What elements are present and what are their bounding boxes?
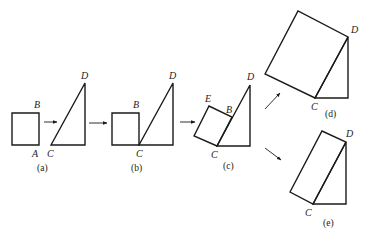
label-c: C xyxy=(136,148,143,159)
panel-d: D C (d) xyxy=(265,11,359,120)
label-e: E xyxy=(204,93,211,104)
label-b: B xyxy=(226,104,232,115)
label-b: B xyxy=(133,99,139,110)
label-a: A xyxy=(31,148,39,159)
right-triangle-shape xyxy=(139,83,173,145)
right-triangle-shape xyxy=(315,37,348,98)
label-d: D xyxy=(345,128,354,139)
caption-e: (e) xyxy=(323,218,334,229)
arrow-icon xyxy=(265,93,280,109)
right-triangle-shape xyxy=(313,142,346,204)
rotated-square-shape xyxy=(265,11,348,98)
label-d: D xyxy=(246,71,255,82)
geometric-proof-diagram: B A C D (a) B C D (b) E B C D (c) D C (d… xyxy=(0,0,365,234)
label-c: C xyxy=(305,207,312,218)
caption-b: (b) xyxy=(131,163,142,174)
panel-e: D C (e) xyxy=(290,128,354,229)
label-c: C xyxy=(47,148,54,159)
square-shape xyxy=(112,113,139,145)
caption-a: (a) xyxy=(37,163,48,174)
right-triangle-shape xyxy=(51,83,85,145)
label-c: C xyxy=(211,149,218,160)
label-d: D xyxy=(80,70,89,81)
panel-b: B C D (b) xyxy=(112,70,177,174)
right-triangle-shape xyxy=(217,85,250,146)
caption-c: (c) xyxy=(223,161,234,172)
rotated-square-shape xyxy=(290,131,346,204)
label-b: B xyxy=(34,99,40,110)
square-shape xyxy=(12,113,39,145)
arrow-icon xyxy=(265,148,281,160)
label-d: D xyxy=(168,70,177,81)
panel-c: E B C D (c) xyxy=(194,71,255,172)
label-d: D xyxy=(350,24,359,35)
label-c: C xyxy=(311,101,318,112)
caption-d: (d) xyxy=(325,109,336,120)
